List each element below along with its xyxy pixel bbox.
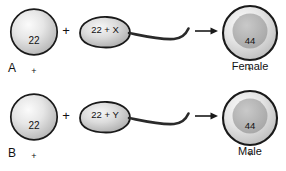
sperm-genotype-label: 22 + Y <box>79 110 131 120</box>
outcome-label-male: Male <box>216 146 284 157</box>
zygote-autosome-count: 44 <box>229 121 271 131</box>
egg-autosome-count: 22 <box>9 121 59 131</box>
row-letter-b: B <box>8 147 24 159</box>
fertilization-plus-operator: + <box>59 109 73 122</box>
outcome-label-female: Female <box>216 61 284 72</box>
zygote-autosome-count: 44 <box>229 36 271 46</box>
diagram-row-a: 22 + X + 22 + X <box>0 0 286 86</box>
diagram-row-b: 22 + X + 22 + Y <box>0 85 286 171</box>
zygote-genotype-label: 44 + XY <box>229 102 271 171</box>
egg-genotype-label: 22 + X <box>9 101 59 171</box>
row-letter-a: A <box>8 62 24 74</box>
sperm-genotype-label: 22 + X <box>79 25 131 35</box>
sex-determination-diagram: 22 + X + 22 + X <box>0 0 286 171</box>
fertilization-plus-operator: + <box>59 24 73 37</box>
arrow-right-icon <box>195 24 219 38</box>
egg-autosome-count: 22 <box>9 36 59 46</box>
arrow-right-icon <box>195 109 219 123</box>
